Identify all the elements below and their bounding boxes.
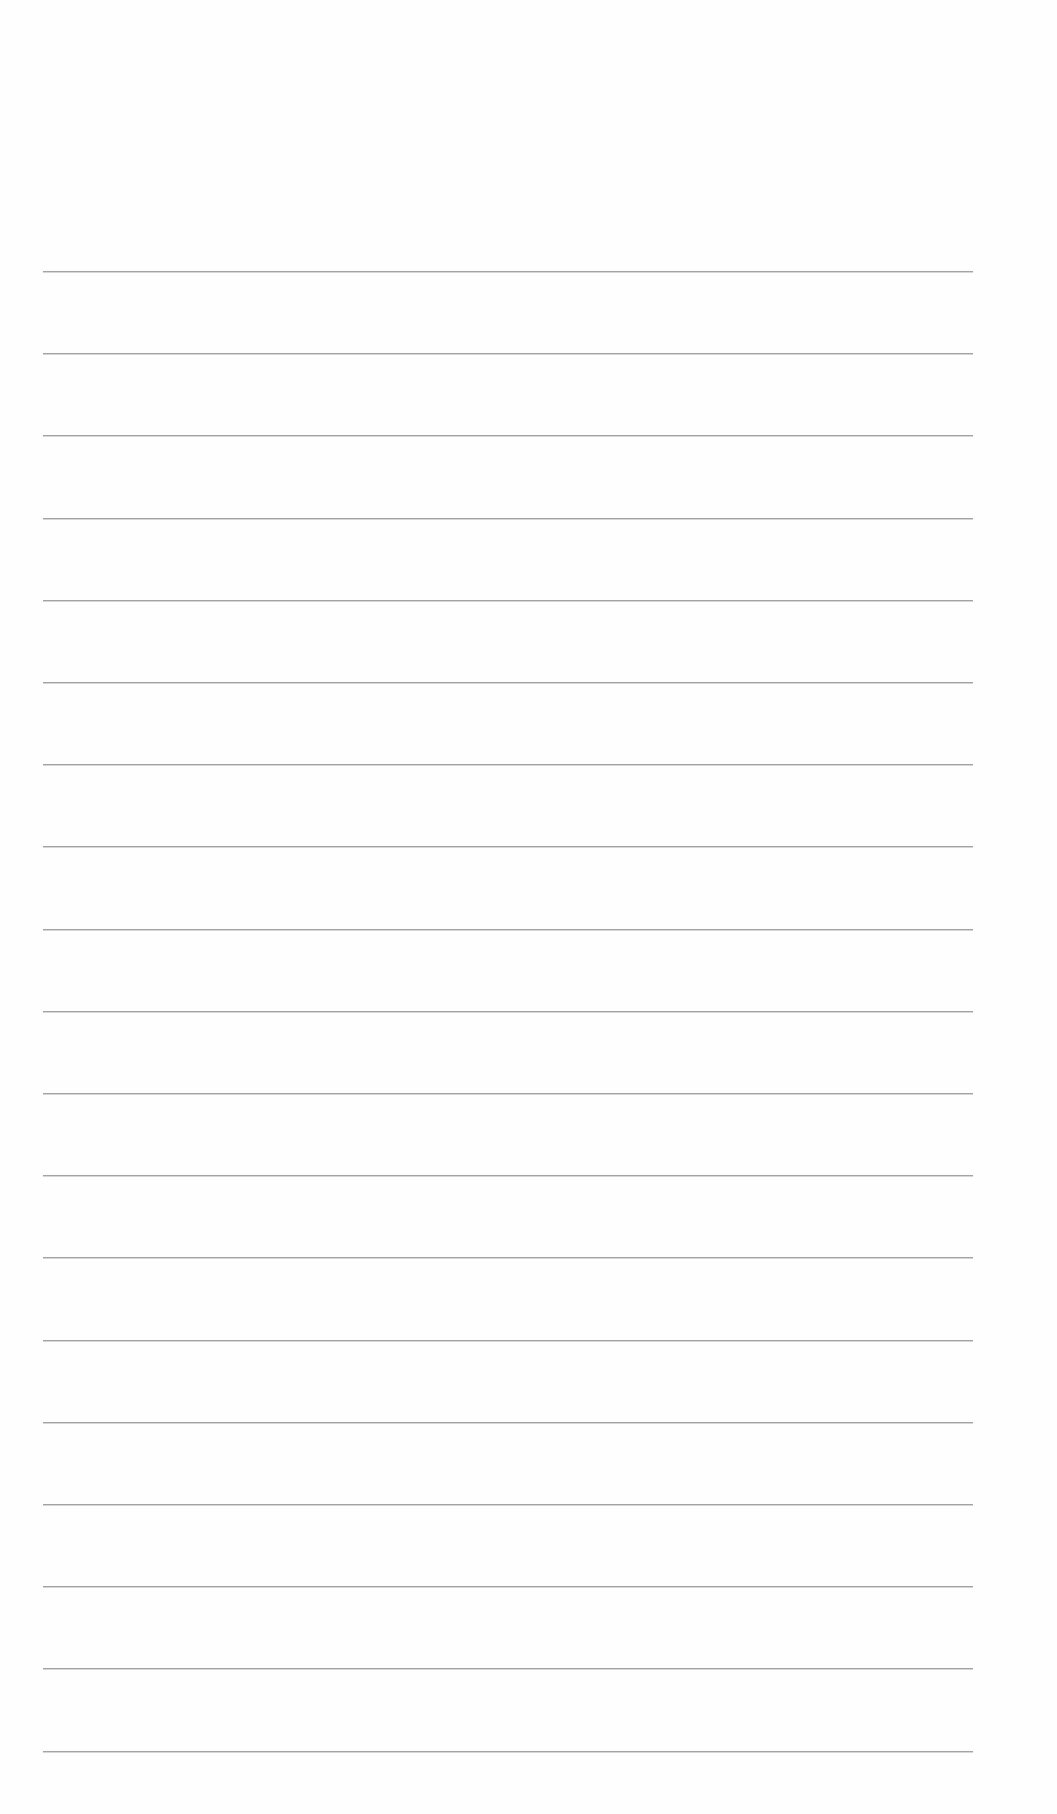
- ruled-line: [43, 1668, 973, 1670]
- ruled-line: [43, 1422, 973, 1424]
- ruled-line: [43, 929, 973, 931]
- ruled-line: [43, 353, 973, 355]
- ruled-line: [43, 764, 973, 766]
- ruled-line: [43, 1340, 973, 1342]
- lined-paper-page: [0, 0, 1057, 1814]
- ruled-line: [43, 846, 973, 848]
- ruled-line: [43, 518, 973, 520]
- ruled-line: [43, 1257, 973, 1259]
- ruled-line: [43, 1093, 973, 1095]
- ruled-line: [43, 682, 973, 684]
- ruled-line: [43, 271, 973, 273]
- ruled-line: [43, 1011, 973, 1013]
- ruled-line: [43, 1586, 973, 1588]
- ruled-line: [43, 435, 973, 437]
- ruled-line: [43, 1504, 973, 1506]
- ruled-line: [43, 1751, 973, 1753]
- ruled-line: [43, 1175, 973, 1177]
- ruled-line: [43, 600, 973, 602]
